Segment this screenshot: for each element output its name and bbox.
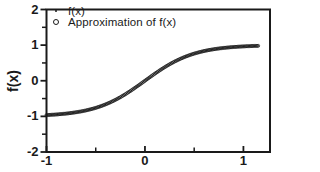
fx-point (181, 58, 182, 59)
fx-point (168, 64, 169, 65)
fx-point (66, 113, 67, 114)
fx-point (158, 71, 159, 72)
fx-point (205, 50, 206, 51)
fx-point (114, 100, 115, 101)
fx-point (121, 96, 122, 97)
fx-point (72, 112, 73, 113)
fx-point (211, 49, 212, 50)
legend-label-fx: f(x) (68, 5, 85, 17)
fx-point (155, 72, 156, 73)
fx-point (119, 97, 120, 98)
fx-point (122, 95, 123, 96)
fx-point (126, 93, 127, 94)
fx-point (244, 46, 245, 47)
fx-point (238, 46, 239, 47)
fx-point (216, 48, 217, 49)
fx-point (248, 46, 249, 47)
fx-point (235, 46, 236, 47)
fx-point (125, 94, 126, 95)
fx-point (153, 74, 154, 75)
fx-point (138, 85, 139, 86)
fx-point (142, 82, 143, 83)
fx-point (199, 52, 200, 53)
fx-point (69, 113, 70, 114)
fx-point (96, 107, 97, 108)
fx-point (169, 64, 170, 65)
fx-point (164, 67, 165, 68)
fx-point (175, 60, 176, 61)
fx-point (58, 114, 59, 115)
fx-point (224, 47, 225, 48)
fx-point (255, 45, 256, 46)
fx-point (120, 97, 121, 98)
fx-point (59, 114, 60, 115)
fx-point (237, 46, 238, 47)
fx-point (201, 51, 202, 52)
fx-point (160, 69, 161, 70)
fx-point (141, 83, 142, 84)
fx-point (48, 114, 49, 115)
fx-point (196, 52, 197, 53)
fx-point (206, 50, 207, 51)
fx-point (101, 105, 102, 106)
fx-point (176, 60, 177, 61)
fx-point (200, 51, 201, 52)
fx-point (46, 115, 47, 116)
fx-point (130, 91, 131, 92)
fx-point (232, 47, 233, 48)
fx-point (173, 62, 174, 63)
fx-point (229, 47, 230, 48)
fx-point (107, 103, 108, 104)
fx-point (112, 101, 113, 102)
fx-point (148, 78, 149, 79)
fx-point (47, 114, 48, 115)
fx-point (95, 107, 96, 108)
fx-point (189, 55, 190, 56)
fx-point (143, 81, 144, 82)
fx-point (79, 111, 80, 112)
fx-point (87, 110, 88, 111)
fx-point (183, 57, 184, 58)
fx-point (74, 112, 75, 113)
fx-point (55, 114, 56, 115)
fx-point (98, 107, 99, 108)
fx-point (234, 46, 235, 47)
fx-point (202, 51, 203, 52)
fx-point (191, 54, 192, 55)
fx-point (139, 84, 140, 85)
fx-point (135, 87, 136, 88)
fx-point (215, 48, 216, 49)
fx-point (151, 76, 152, 77)
fx-point (212, 49, 213, 50)
dot-marker-icon (51, 10, 60, 12)
fx-point (110, 102, 111, 103)
fx-point (213, 49, 214, 50)
fx-point (84, 110, 85, 111)
fx-point (154, 73, 155, 74)
fx-point (170, 63, 171, 64)
fx-point (132, 89, 133, 90)
fx-point (89, 109, 90, 110)
fx-point (242, 46, 243, 47)
plot-frame (47, 10, 271, 153)
fx-point (104, 104, 105, 105)
fx-point (187, 55, 188, 56)
fx-point (77, 112, 78, 113)
fx-point (83, 110, 84, 111)
fx-point (247, 46, 248, 47)
fx-point (179, 59, 180, 60)
fx-point (163, 67, 164, 68)
fx-point (245, 46, 246, 47)
fx-point (50, 114, 51, 115)
fx-point (82, 111, 83, 112)
legend: f(x) Approximation of f(x) (51, 5, 176, 28)
fx-point (226, 47, 227, 48)
fx-point (71, 112, 72, 113)
fx-point (117, 98, 118, 99)
fx-point (136, 86, 137, 87)
fx-point (63, 113, 64, 114)
fx-point (111, 101, 112, 102)
fx-point (253, 45, 254, 46)
fx-point (137, 85, 138, 86)
fx-point (152, 75, 153, 76)
